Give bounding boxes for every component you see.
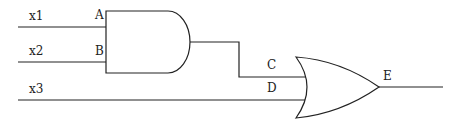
label-b: B: [95, 44, 104, 58]
wire-and-output: [190, 42, 308, 77]
label-d: D: [267, 81, 277, 95]
or-gate: [296, 57, 379, 118]
label-c: C: [267, 58, 276, 72]
label-x1: x1: [29, 9, 43, 23]
label-x2: x2: [29, 44, 43, 58]
label-a: A: [94, 8, 104, 22]
and-gate: [106, 11, 190, 73]
label-x3: x3: [29, 82, 43, 96]
logic-circuit-diagram: x1 x2 x3 A B C D E: [0, 0, 462, 124]
label-e: E: [383, 69, 392, 83]
